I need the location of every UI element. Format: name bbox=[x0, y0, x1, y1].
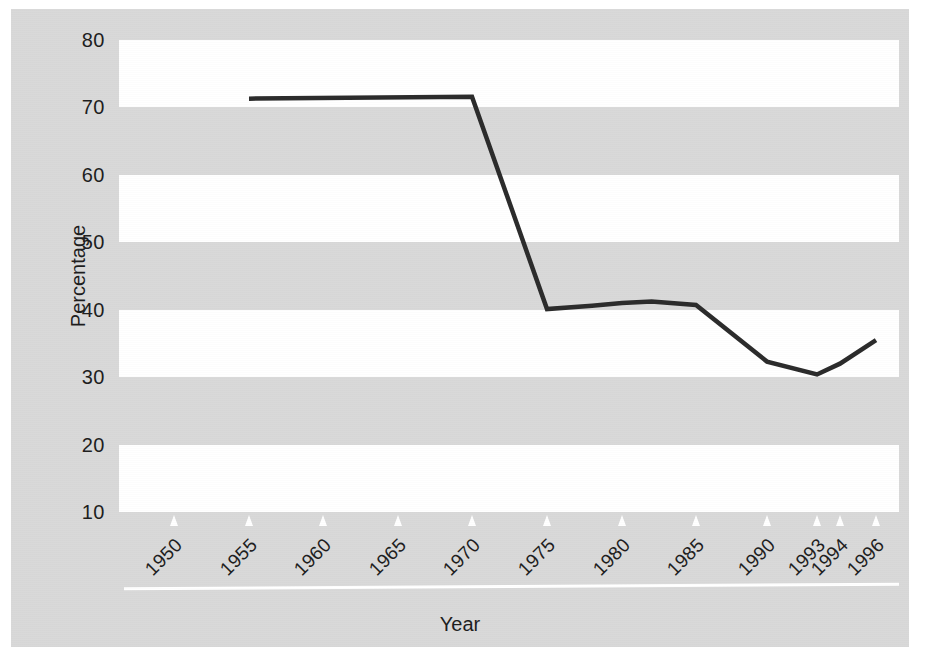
x-axis-tick-marker bbox=[813, 515, 821, 526]
x-axis-tick-marker bbox=[763, 515, 771, 526]
y-axis-tick-label: 50 bbox=[82, 231, 105, 254]
x-axis-tick-label: 1996 bbox=[843, 534, 889, 580]
x-axis-title: Year bbox=[11, 613, 909, 636]
x-axis-tick-label: 1985 bbox=[663, 534, 709, 580]
chart-figure: Percentage 8070605040302010 195019551960… bbox=[0, 0, 930, 671]
plot-area bbox=[119, 40, 899, 512]
y-axis-tick-label: 30 bbox=[82, 366, 105, 389]
y-axis-tick-label: 20 bbox=[82, 433, 105, 456]
y-axis-tick-label: 60 bbox=[82, 163, 105, 186]
x-axis-rule bbox=[124, 583, 899, 591]
y-axis-tick-labels: 8070605040302010 bbox=[11, 40, 115, 512]
x-axis-tick-marker bbox=[170, 515, 178, 526]
x-axis-tick-marker bbox=[394, 515, 402, 526]
x-axis-tick-label: 1965 bbox=[365, 534, 411, 580]
chart-panel: Percentage 8070605040302010 195019551960… bbox=[11, 9, 909, 647]
y-axis-tick-label: 70 bbox=[82, 96, 105, 119]
x-axis-tick-label: 1975 bbox=[514, 534, 560, 580]
x-axis-tick-marker bbox=[872, 515, 880, 526]
x-axis-tick-marker bbox=[543, 515, 551, 526]
x-axis-tick-marker bbox=[319, 515, 327, 526]
x-axis-tick-marker bbox=[468, 515, 476, 526]
x-axis-tick-label: 1955 bbox=[216, 534, 262, 580]
x-axis-tick-marker bbox=[692, 515, 700, 526]
series-line-chart bbox=[119, 40, 899, 512]
x-axis-tick-label: 1980 bbox=[589, 534, 635, 580]
x-axis-tick-marker bbox=[618, 515, 626, 526]
x-axis-tick-label: 1990 bbox=[734, 534, 780, 580]
y-axis-tick-label: 40 bbox=[82, 298, 105, 321]
x-axis-tick-marker bbox=[836, 515, 844, 526]
series-polyline bbox=[249, 97, 876, 375]
x-axis-tick-marker bbox=[245, 515, 253, 526]
x-axis-tick-label: 1960 bbox=[290, 534, 336, 580]
y-axis-tick-label: 80 bbox=[82, 29, 105, 52]
x-axis-tick-label: 1950 bbox=[141, 534, 187, 580]
y-axis-tick-label: 10 bbox=[82, 501, 105, 524]
x-axis-tick-label: 1970 bbox=[439, 534, 485, 580]
